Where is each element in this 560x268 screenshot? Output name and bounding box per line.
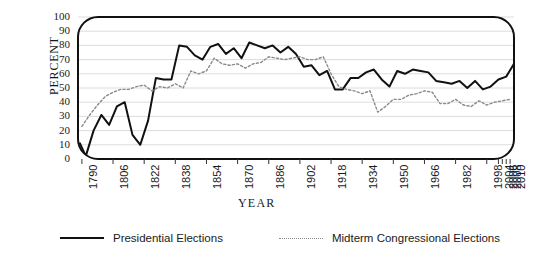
x-tick-label: 1902 [305,165,317,189]
x-tick-label: 1822 [149,165,161,189]
x-tick-label: 1934 [367,165,379,189]
x-tick-label: 1838 [180,165,192,189]
legend-swatch-solid-line-icon [60,237,104,239]
y-tick-label: 40 [42,95,70,107]
x-tick-label: 1950 [398,165,410,189]
x-tick-label: 2010 [515,165,527,189]
y-tick-label: 70 [42,53,70,65]
legend-item-midterm: Midterm Congressional Elections [279,232,500,244]
y-tick-label: 30 [42,109,70,121]
y-tick-label: 60 [42,67,70,79]
y-tick-label: 0 [42,152,70,164]
x-tick-label: 1998 [492,165,504,189]
x-tick-label: 1870 [243,165,255,189]
y-tick-label: 50 [42,81,70,93]
grid-lines [78,17,514,145]
x-axis-title: YEAR [238,196,275,211]
legend-label-midterm: Midterm Congressional Elections [332,232,500,244]
legend-swatch-dotted-line-icon [279,238,323,239]
legend-label-presidential: Presidential Elections [113,232,223,244]
x-tick-label: 1918 [336,165,348,189]
chart-figure: PERCENT YEAR 0102030405060708090100 1790… [0,0,560,268]
chart-plot-area [0,0,560,268]
y-tick-label: 90 [42,24,70,36]
legend-item-presidential: Presidential Elections [60,232,223,244]
y-tick-label: 20 [42,124,70,136]
y-tick-label: 100 [42,10,70,22]
x-tick-label: 1806 [118,165,130,189]
y-tick-label: 10 [42,138,70,150]
x-tick-label: 1886 [274,165,286,189]
x-tick-label: 1854 [211,165,223,189]
x-tick-label: 1966 [429,165,441,189]
chart-legend: Presidential Elections Midterm Congressi… [0,232,560,244]
series-line-midterm [82,57,510,127]
x-tick-label: 1790 [87,165,99,189]
x-tick-label: 1982 [461,165,473,189]
y-tick-label: 80 [42,38,70,50]
